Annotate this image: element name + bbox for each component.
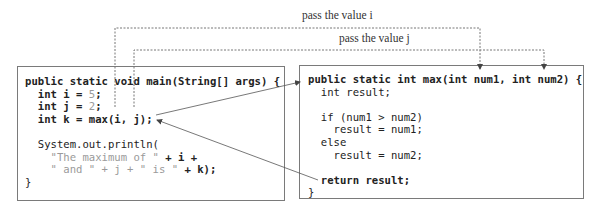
code-line: public static int max(int num1, int num2… xyxy=(308,73,582,85)
code-line: result = num1; xyxy=(308,123,423,135)
code-line: int result; xyxy=(308,86,391,98)
code-line: System.out.println( xyxy=(25,138,159,150)
pass-value-i-label: pass the value i xyxy=(302,9,373,21)
code-line: " and " + j + " is " + k); xyxy=(25,163,216,175)
code-line: } xyxy=(25,176,31,188)
code-line: else xyxy=(308,136,346,148)
code-line: if (num1 > num2) xyxy=(308,111,423,123)
code-line: public static void main(String[] args) { xyxy=(25,75,280,87)
max-method-box: public static int max(int num1, int num2… xyxy=(299,65,584,199)
code-line: int k = max(i, j); xyxy=(25,113,153,125)
code-line: result = num2; xyxy=(308,149,423,161)
code-line: int j = 2; xyxy=(25,100,102,112)
code-line: int i = 5; xyxy=(25,88,102,100)
code-line: return result; xyxy=(308,174,410,186)
code-line: "The maximum of " + i + xyxy=(25,151,197,163)
max-method-code: public static int max(int num1, int num2… xyxy=(308,73,582,199)
code-line: } xyxy=(308,186,314,198)
main-method-box: public static void main(String[] args) {… xyxy=(17,66,285,201)
main-method-code: public static void main(String[] args) {… xyxy=(25,75,280,188)
pass-value-j-label: pass the value j xyxy=(339,32,410,44)
